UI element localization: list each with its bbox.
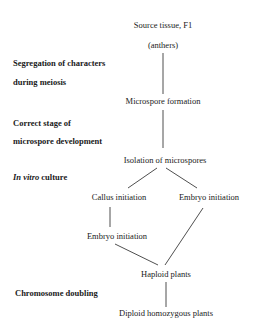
- stage-label-segregation-1: Segregation of characters: [13, 58, 105, 68]
- edge-embryo-left-to-haploid: [115, 244, 158, 265]
- in-vitro-italic: In vitro: [13, 172, 39, 182]
- node-embryo-initiation-left: Embryo initiation: [87, 231, 147, 241]
- node-diploid-homozygous-plants: Diploid homozygous plants: [119, 308, 213, 318]
- edge-embryo-right-to-haploid: [165, 208, 203, 265]
- culture-text: culture: [39, 172, 67, 182]
- stage-label-correct-stage-2: microspore development: [13, 136, 102, 146]
- node-embryo-initiation-right: Embryo initiation: [179, 192, 239, 202]
- node-microspore-formation: Microspore formation: [126, 96, 201, 106]
- stage-label-in-vitro-culture: In vitro culture: [13, 172, 67, 182]
- flowchart-edges: [0, 0, 254, 332]
- edge-isolation-to-embryo-right: [166, 168, 197, 188]
- node-callus-initiation: Callus initiation: [92, 192, 147, 202]
- node-source-tissue: Source tissue, F1: [134, 20, 192, 30]
- node-anthers: (anthers): [148, 40, 178, 50]
- node-isolation-of-microspores: Isolation of microspores: [124, 155, 207, 165]
- stage-label-segregation-2: during meiosis: [13, 77, 66, 87]
- stage-label-chromosome-doubling: Chromosome doubling: [15, 288, 98, 298]
- node-haploid-plants: Haploid plants: [141, 269, 191, 279]
- stage-label-correct-stage-1: Correct stage of: [13, 118, 71, 128]
- edge-isolation-to-callus: [128, 168, 157, 188]
